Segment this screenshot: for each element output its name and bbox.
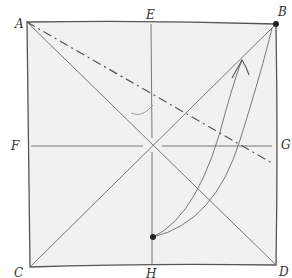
label-b: B bbox=[278, 6, 287, 18]
label-d: D bbox=[279, 266, 289, 278]
label-a: A bbox=[15, 18, 24, 30]
moving-point-dot bbox=[150, 234, 156, 240]
label-g: G bbox=[281, 139, 291, 151]
origami-diagram bbox=[0, 0, 292, 278]
label-c: C bbox=[14, 267, 23, 278]
label-h: H bbox=[146, 268, 156, 278]
label-e: E bbox=[146, 9, 155, 21]
corner-b-dot bbox=[273, 21, 279, 27]
label-f: F bbox=[11, 140, 19, 152]
